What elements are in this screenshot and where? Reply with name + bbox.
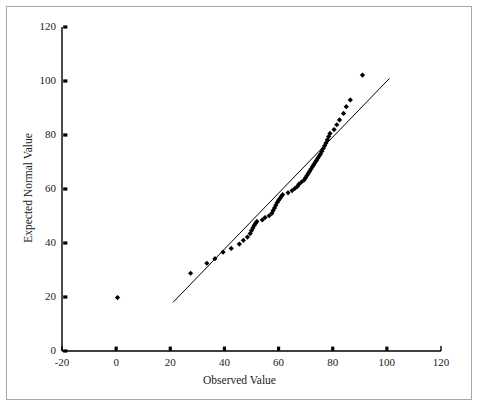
y-tick-mark [63, 349, 67, 352]
data-point [115, 295, 120, 300]
x-tick-label: 0 [91, 357, 141, 368]
x-tick-label: 40 [199, 357, 249, 368]
data-points-group [115, 72, 365, 300]
reference-line [173, 78, 390, 302]
axes-group [62, 27, 441, 351]
x-tick-label: 80 [308, 357, 358, 368]
x-tick-mark [115, 347, 118, 351]
reference-line-segment [173, 78, 390, 302]
data-point [344, 104, 349, 109]
y-tick-mark [63, 295, 67, 298]
qq-plot-figure: 020406080100120 -20020406080100120 Obser… [0, 0, 479, 407]
x-tick-mark [169, 347, 172, 351]
data-point [331, 127, 336, 132]
plot-canvas [0, 0, 479, 407]
data-point [241, 238, 246, 243]
y-tick-mark [63, 187, 67, 190]
data-point [229, 246, 234, 251]
x-tick-mark [385, 347, 388, 351]
y-axis-title: Expected Normal Value [22, 28, 34, 348]
x-tick-label: -20 [37, 357, 87, 368]
data-point [341, 111, 346, 116]
x-tick-label: 20 [145, 357, 195, 368]
data-point [337, 117, 342, 122]
y-tick-mark [63, 79, 67, 82]
x-tick-label: 120 [416, 357, 466, 368]
x-tick-label: 60 [254, 357, 304, 368]
y-tick-mark [63, 241, 67, 244]
data-point [334, 122, 339, 127]
tick-marks-group [62, 25, 441, 352]
x-tick-mark [277, 347, 280, 351]
x-axis-title: Observed Value [0, 374, 479, 386]
x-tick-label: 100 [362, 357, 412, 368]
y-tick-mark [63, 133, 67, 136]
data-point [237, 241, 242, 246]
data-point [348, 97, 353, 102]
y-tick-mark [63, 25, 67, 28]
data-point [220, 250, 225, 255]
data-point [188, 271, 193, 276]
x-tick-mark [331, 347, 334, 351]
data-point [360, 72, 365, 77]
x-tick-mark [223, 347, 226, 351]
